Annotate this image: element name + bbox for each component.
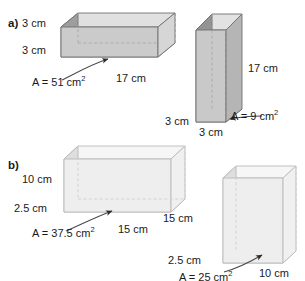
dim-b2-depth: 2.5 cm: [168, 255, 201, 266]
area-a1-eq: A = 51 cm: [32, 76, 81, 88]
dim-b1-height: 10 cm: [22, 174, 52, 185]
top-face-b1: [64, 146, 185, 159]
area-a1-exp: 2: [81, 74, 85, 83]
dim-b2-height: 15 cm: [163, 213, 193, 224]
dim-a2-width: 3 cm: [199, 127, 223, 138]
area-a2: A = 9 cm2: [231, 109, 278, 122]
dim-a2-depth: 3 cm: [165, 116, 189, 127]
dim-b1-length: 15 cm: [118, 224, 148, 235]
area-b1-exp: 2: [90, 225, 94, 234]
front-face-b2: [223, 178, 283, 263]
dim-b2-width: 10 cm: [259, 268, 289, 279]
area-b2: A = 25 cm2: [179, 270, 232, 281]
dim-b1-depth: 2.5 cm: [14, 203, 47, 214]
front-face-a1: [61, 27, 158, 57]
diagram-canvas: a) 3 cm 3 cm A = 51 cm2 17 cm 17 cm 3 cm…: [0, 0, 305, 281]
area-a2-eq: A = 9 cm: [231, 110, 274, 122]
part-label-b: b): [8, 160, 19, 172]
right-face-b2: [283, 166, 296, 263]
dim-a1-height: 3 cm: [22, 18, 46, 29]
area-b1: A = 37.5 cm2: [32, 226, 95, 239]
area-b1-eq: A = 37.5 cm: [32, 227, 90, 239]
dim-a2-height: 17 cm: [248, 63, 278, 74]
figure-a-wide-prism: [61, 13, 175, 80]
figure-b-tall-box: [223, 166, 296, 272]
dim-a1-length: 17 cm: [116, 73, 146, 84]
area-b2-exp: 2: [228, 269, 232, 278]
area-b2-eq: A = 25 cm: [179, 271, 228, 281]
area-a1: A = 51 cm2: [32, 75, 85, 88]
part-label-a: a): [8, 18, 18, 30]
dim-a1-depth: 3 cm: [22, 45, 46, 56]
area-a2-exp: 2: [274, 108, 278, 117]
front-face-a2: [196, 30, 226, 122]
front-face-b1: [64, 159, 171, 212]
right-face-a2: [226, 14, 242, 122]
prism-illustrations: [0, 0, 305, 281]
